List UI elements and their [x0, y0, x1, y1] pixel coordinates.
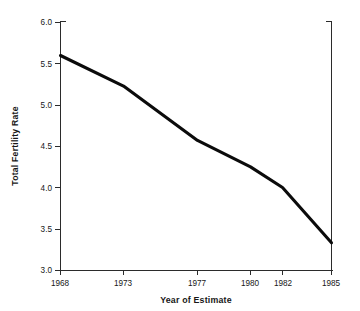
y-axis-ticks — [55, 23, 60, 271]
plot-area-background — [60, 22, 332, 270]
y-tick-label-3-0: 3.0 — [41, 266, 53, 275]
y-tick-label-5-0: 5.0 — [41, 101, 53, 110]
y-tick-label-4-5: 4.5 — [41, 142, 53, 151]
x-tick-label-1977: 1977 — [188, 279, 207, 288]
chart-canvas: 3.0 3.5 4.0 4.5 5.0 5.5 6.0 1968 1973 19… — [0, 0, 360, 311]
x-tick-label-1973: 1973 — [114, 279, 133, 288]
x-tick-label-1968: 1968 — [51, 279, 70, 288]
y-axis-title: Total Fertility Rate — [10, 106, 20, 185]
fertility-rate-line-chart: 3.0 3.5 4.0 4.5 5.0 5.5 6.0 1968 1973 19… — [0, 0, 360, 311]
y-axis-tick-labels: 3.0 3.5 4.0 4.5 5.0 5.5 6.0 — [41, 18, 53, 275]
x-tick-label-1980: 1980 — [241, 279, 260, 288]
x-tick-label-1982: 1982 — [274, 279, 293, 288]
x-axis-tick-labels: 1968 1973 1977 1980 1982 1985 — [51, 279, 341, 288]
y-tick-label-3-5: 3.5 — [41, 225, 53, 234]
y-tick-label-5-5: 5.5 — [41, 60, 53, 69]
y-tick-label-6-0: 6.0 — [41, 18, 53, 27]
x-axis-title: Year of Estimate — [160, 295, 232, 305]
y-tick-label-4-0: 4.0 — [41, 184, 53, 193]
x-tick-label-1985: 1985 — [322, 279, 341, 288]
